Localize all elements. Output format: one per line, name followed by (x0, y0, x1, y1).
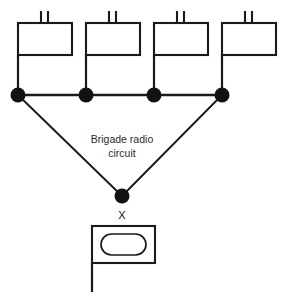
unit-symbol-rect (18, 23, 72, 55)
network-node (11, 88, 26, 103)
network-node (215, 88, 230, 103)
circuit-label-line1: Brigade radio (91, 133, 154, 145)
brigade-headquarters (92, 226, 155, 292)
unit-symbol-rect (222, 23, 276, 55)
diagram-canvas: Brigade radio circuit X (0, 0, 286, 299)
brigade-designator-label: X (118, 209, 126, 221)
unit-symbol-rect (154, 23, 208, 55)
battalion-unit-3 (154, 11, 208, 95)
circuit-branch-right (122, 95, 222, 196)
battalion-unit-4 (222, 11, 276, 95)
network-node (147, 88, 162, 103)
vertex-node (115, 189, 130, 204)
circuit-label-line2: circuit (108, 147, 136, 159)
battalion-unit-1 (18, 11, 72, 95)
headquarters-stadium-icon (101, 234, 146, 255)
battalion-unit-2 (86, 11, 140, 95)
circuit-branch-left (18, 95, 122, 196)
radio-circuit-diagram: Brigade radio circuit X (0, 0, 286, 299)
network-node (79, 88, 94, 103)
unit-symbol-rect (86, 23, 140, 55)
